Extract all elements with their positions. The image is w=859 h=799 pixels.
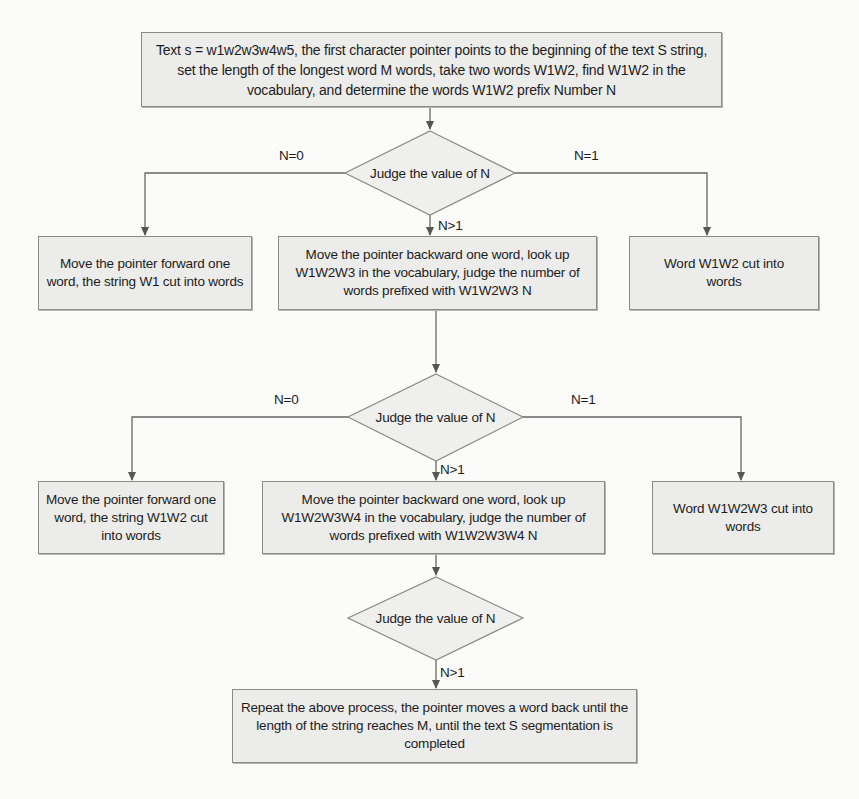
connectors: [0, 0, 859, 799]
decision1-label-left: N=0: [279, 148, 304, 163]
row1-right-text: Word W1W2 cut into words: [636, 255, 812, 291]
row1-right-box: Word W1W2 cut into words: [629, 236, 819, 310]
start-box: Text s = w1w2w3w4w5, the first character…: [141, 32, 722, 107]
row2-left-box: Move the pointer forward one word, the s…: [38, 481, 224, 554]
row2-left-text: Move the pointer forward one word, the s…: [45, 491, 217, 545]
end-box: Repeat the above process, the pointer mo…: [232, 689, 637, 763]
decision2-text: Judge the value of N: [348, 404, 523, 430]
row1-center-text: Move the pointer backward one word, look…: [285, 246, 590, 300]
row2-right-text: Word W1W2W3 cut into words: [659, 500, 827, 536]
row1-center-box: Move the pointer backward one word, look…: [278, 236, 597, 310]
start-text: Text s = w1w2w3w4w5, the first character…: [148, 40, 715, 100]
decision1-text: Judge the value of N: [345, 160, 515, 186]
decision1-label-down: N>1: [438, 218, 463, 233]
decision2-label-down: N>1: [440, 462, 465, 477]
decision3-label-down: N>1: [440, 665, 465, 680]
decision2-label-left: N=0: [274, 392, 299, 407]
flowchart: Text s = w1w2w3w4w5, the first character…: [0, 0, 859, 799]
decision1-label-right: N=1: [574, 148, 599, 163]
row1-left-text: Move the pointer forward one word, the s…: [45, 255, 245, 291]
row2-right-box: Word W1W2W3 cut into words: [652, 481, 834, 554]
row1-left-box: Move the pointer forward one word, the s…: [38, 236, 252, 310]
row2-center-text: Move the pointer backward one word, look…: [269, 491, 598, 545]
end-text: Repeat the above process, the pointer mo…: [239, 699, 630, 753]
decision2-label-right: N=1: [571, 392, 596, 407]
row2-center-box: Move the pointer backward one word, look…: [262, 481, 605, 554]
decision3-text: Judge the value of N: [348, 605, 523, 631]
